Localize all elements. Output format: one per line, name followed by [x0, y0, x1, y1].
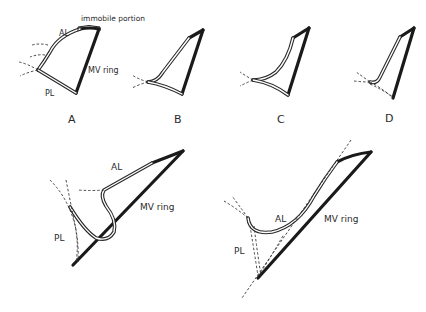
al-label-a: AL: [59, 29, 69, 38]
panel-label-b: B: [174, 113, 182, 126]
al-label-bottom-right: AL: [275, 214, 286, 224]
mv-ring-line: [76, 29, 99, 93]
dashed-line: [240, 72, 253, 80]
panel-a: immobile portion AL PL MV ring A: [19, 14, 145, 126]
mitral-valve-diagram: immobile portion AL PL MV ring A B C: [0, 0, 426, 312]
panel-bottom-right: AL MV ring PL: [224, 140, 371, 298]
anterior-leaflet: [370, 37, 400, 82]
panel-bottom-left: AL MV ring PL: [50, 151, 183, 265]
al-label-bottom-left: AL: [111, 162, 122, 172]
mv-ring-label-bottom-right: MV ring: [324, 214, 358, 224]
panel-label-d: D: [385, 112, 393, 125]
panel-d: D: [354, 28, 414, 125]
pl-label-a: PL: [45, 89, 55, 98]
dashed-line: [132, 75, 148, 82]
panel-label-c: C: [277, 113, 285, 126]
mv-ring-label-bottom-left: MV ring: [140, 202, 174, 212]
pl-label-bottom-right: PL: [234, 246, 244, 256]
dashed-line: [356, 72, 370, 82]
panel-b: B: [132, 30, 203, 126]
mv-ring-label-a: MV ring: [88, 66, 119, 75]
posterior-leaflet: [253, 80, 288, 95]
pl-label-bottom-left: PL: [54, 233, 64, 243]
immobile-portion-label: immobile portion: [81, 14, 145, 23]
mv-ring-line: [393, 28, 414, 98]
immobile-portion-segment: [80, 28, 99, 29]
panel-label-a: A: [68, 113, 76, 126]
dashed-line: [77, 190, 104, 191]
dashed-line: [32, 44, 48, 45]
mv-ring-line: [182, 30, 203, 94]
panel-c: C: [240, 28, 309, 126]
anterior-leaflet: [148, 38, 189, 82]
